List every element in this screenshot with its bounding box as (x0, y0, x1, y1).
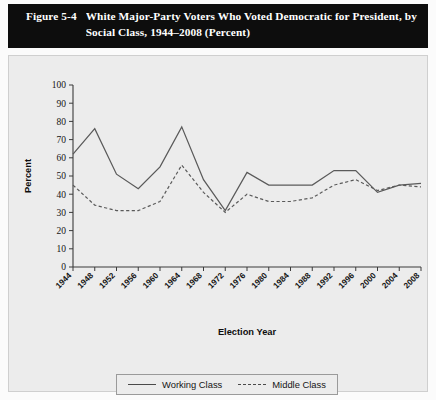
legend-label-working-class: Working Class (162, 379, 222, 390)
y-axis-title: Percent (23, 159, 33, 193)
y-tick-label: 0 (61, 262, 66, 272)
plot-area: 0102030405060708090100 19441948195219561… (9, 60, 429, 350)
x-tick-label: 2004 (380, 271, 400, 291)
figure-number: Figure 5-4 (26, 9, 77, 25)
chart-panel: 0102030405060708090100 19441948195219561… (8, 55, 428, 392)
line-chart: 0102030405060708090100 19441948195219561… (9, 60, 429, 350)
y-tick-label: 40 (57, 190, 67, 200)
x-tick-label: 1948 (76, 271, 96, 291)
x-tick-label: 1980 (250, 271, 270, 291)
legend-item-working-class: Working Class (128, 379, 222, 390)
chart-legend: Working Class Middle Class (116, 374, 338, 395)
x-axis-ticks: 1944194819521956196019641968197219761980… (54, 267, 422, 290)
y-tick-label: 100 (52, 80, 67, 90)
figure-caption: White Major-Party Voters Who Voted Democ… (86, 9, 418, 40)
y-tick-label: 30 (57, 208, 67, 218)
y-tick-label: 10 (57, 244, 67, 254)
y-axis-ticks: 0102030405060708090100 (52, 80, 73, 272)
x-tick-label: 1996 (337, 271, 357, 291)
x-tick-label: 1992 (315, 271, 335, 291)
figure-container: Figure 5-4 White Major-Party Voters Who … (0, 0, 436, 400)
x-tick-label: 1944 (54, 271, 74, 291)
x-tick-label: 1972 (206, 271, 226, 291)
x-tick-label: 1964 (163, 271, 183, 291)
x-axis-title: Election Year (218, 327, 277, 337)
y-tick-label: 70 (57, 135, 67, 145)
x-tick-label: 1960 (141, 271, 161, 291)
legend-item-middle-class: Middle Class (238, 379, 326, 390)
x-tick-label: 2000 (359, 271, 379, 291)
y-tick-label: 20 (57, 226, 67, 236)
x-tick-label: 1956 (119, 271, 139, 291)
legend-label-middle-class: Middle Class (272, 379, 326, 390)
x-tick-label: 1976 (228, 271, 248, 291)
legend-swatch-dashed-icon (238, 384, 266, 385)
legend-swatch-solid-icon (128, 384, 156, 385)
series-working-class (73, 127, 421, 211)
x-tick-label: 2008 (402, 271, 422, 291)
x-tick-label: 1968 (185, 271, 205, 291)
y-tick-label: 60 (57, 153, 67, 163)
x-tick-label: 1952 (98, 271, 118, 291)
x-tick-label: 1988 (293, 271, 313, 291)
y-tick-label: 80 (57, 117, 67, 127)
y-tick-label: 50 (57, 171, 67, 181)
y-tick-label: 90 (57, 99, 67, 109)
figure-title-band: Figure 5-4 White Major-Party Voters Who … (8, 4, 428, 48)
x-tick-label: 1984 (272, 271, 292, 291)
figure-title-text: Figure 5-4 White Major-Party Voters Who … (26, 9, 418, 40)
